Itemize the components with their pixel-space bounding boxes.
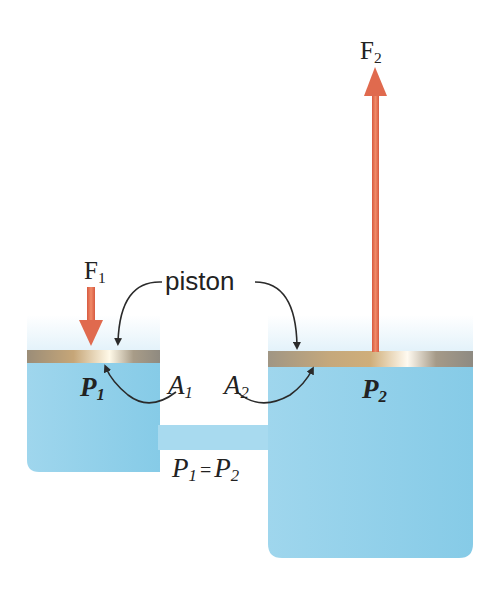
piston-label: piston xyxy=(165,268,234,294)
left-piston xyxy=(27,350,160,363)
area-right-label: A2 xyxy=(224,372,249,402)
force-output-arrow xyxy=(364,67,387,352)
force-input-label: F1 xyxy=(84,258,106,285)
pressure-left-label: P1 xyxy=(80,374,105,404)
pressure-right-label: P2 xyxy=(362,376,387,406)
connecting-tube xyxy=(158,425,270,450)
hydraulic-diagram xyxy=(0,0,491,589)
right-cylinder xyxy=(268,315,473,558)
right-piston xyxy=(268,351,473,367)
pressure-equation: P1=P2 xyxy=(172,455,239,485)
area-left-label: A1 xyxy=(168,372,193,402)
force-output-label: F2 xyxy=(360,38,382,65)
